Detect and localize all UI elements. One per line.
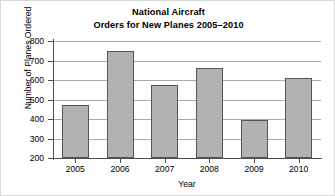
y-axis-tick-label: 400 (14, 115, 44, 124)
bar-2009 (241, 120, 268, 158)
y-axis-tick-label: 300 (14, 135, 44, 144)
y-axis-tick (48, 61, 53, 62)
y-axis-tick (48, 139, 53, 140)
y-axis-tick (48, 80, 53, 81)
bar-2008 (196, 68, 223, 158)
bar-2007 (151, 85, 178, 158)
y-axis-tick-label: 800 (14, 37, 44, 46)
y-axis-tick (48, 158, 53, 159)
x-axis-tick (209, 159, 210, 163)
x-axis-tick-label: 2010 (279, 165, 319, 174)
y-axis-tick-label: 500 (14, 96, 44, 105)
bar-2010 (285, 78, 312, 158)
x-axis-tick-label: 2005 (55, 165, 95, 174)
x-axis-tick (254, 159, 255, 163)
chart-title-line-2: Orders for New Planes 2005–2010 (1, 19, 335, 32)
gridline (53, 119, 321, 120)
x-axis-tick-label: 2006 (100, 165, 140, 174)
y-axis-tick-label: 200 (14, 154, 44, 163)
x-axis-tick-label: 2007 (145, 165, 185, 174)
y-axis-tick (48, 119, 53, 120)
x-axis-tick-label: 2009 (234, 165, 274, 174)
y-axis-tick-label: 600 (14, 76, 44, 85)
chart-title: National Aircraft Orders for New Planes … (1, 6, 335, 31)
x-axis-tick (75, 159, 76, 163)
x-axis-label: Year (53, 179, 321, 189)
gridline (53, 80, 321, 81)
x-axis-tick-label: 2008 (189, 165, 229, 174)
bar-2006 (107, 51, 134, 158)
gridline (53, 41, 321, 42)
gridline (53, 139, 321, 140)
gridline (53, 100, 321, 101)
x-axis-tick (165, 159, 166, 163)
y-axis-tick (48, 41, 53, 42)
x-axis-line (53, 158, 322, 159)
y-axis-line (53, 39, 54, 160)
plot-area (53, 41, 321, 158)
x-axis-tick (299, 159, 300, 163)
x-axis-tick (120, 159, 121, 163)
gridline (53, 61, 321, 62)
bar-2005 (62, 105, 89, 158)
bar-chart: National Aircraft Orders for New Planes … (0, 0, 335, 196)
chart-title-line-1: National Aircraft (1, 6, 335, 19)
y-axis-tick (48, 100, 53, 101)
y-axis-tick-label: 700 (14, 57, 44, 66)
